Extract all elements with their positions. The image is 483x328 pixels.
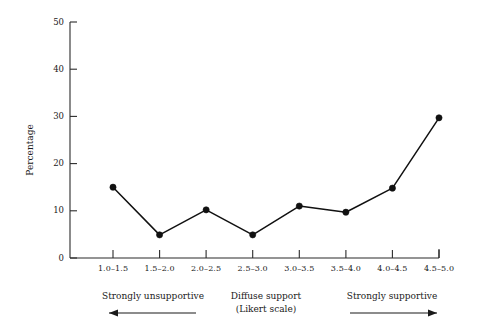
annotation-right-label: Strongly supportive (347, 291, 437, 301)
data-point-0 (110, 184, 116, 190)
y-tick-label-30: 30 (53, 111, 64, 121)
y-tick-label-10: 10 (53, 205, 64, 215)
annotation-center-line2: (Likert scale) (236, 304, 297, 314)
y-tick-label-0: 0 (59, 253, 64, 263)
data-point-1 (156, 232, 162, 238)
data-point-3 (250, 232, 256, 238)
x-tick-label-0: 1.0–1.5 (98, 264, 128, 273)
x-tick-label-7: 4.5–5.0 (424, 264, 454, 273)
y-axis-title: Percentage (25, 124, 35, 176)
data-point-7 (436, 115, 442, 121)
x-tick-label-6: 4.0–4.5 (377, 264, 407, 273)
x-tick-label-4: 3.0–3.5 (284, 264, 314, 273)
data-point-5 (343, 209, 349, 215)
annotation-center-line1: Diffuse support (231, 291, 302, 301)
chart-figure: Percentage 0 10 20 30 40 50 (0, 0, 483, 328)
x-tick-label-2: 2.0–2.5 (191, 264, 221, 273)
y-tick-label-20: 20 (53, 158, 64, 168)
percentage-likert-line-chart: Percentage 0 10 20 30 40 50 (0, 0, 483, 328)
data-point-6 (389, 185, 395, 191)
data-point-2 (203, 207, 209, 213)
y-tick-label-40: 40 (53, 64, 64, 74)
x-tick-label-3: 2.5–3.0 (238, 264, 268, 273)
x-tick-label-1: 1.5–2.0 (145, 264, 175, 273)
x-tick-label-5: 3.5–4.0 (331, 264, 361, 273)
y-tick-label-50: 50 (53, 17, 64, 27)
annotation-left-label: Strongly unsupportive (102, 291, 204, 301)
data-point-4 (296, 203, 302, 209)
